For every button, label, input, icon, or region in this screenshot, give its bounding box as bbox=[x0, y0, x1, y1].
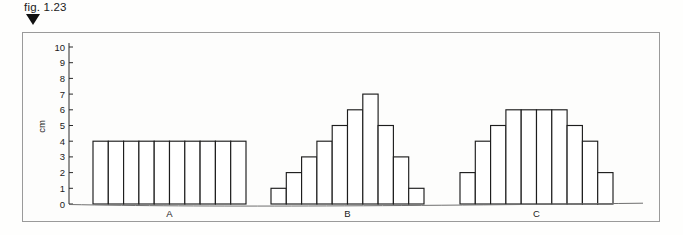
y-axis-tick-label: 9 bbox=[60, 57, 65, 68]
bar bbox=[460, 173, 475, 204]
bar bbox=[582, 141, 597, 204]
bar bbox=[286, 173, 301, 204]
bar bbox=[537, 110, 552, 204]
page-root: fig. 1.23 012345678910cm ABC bbox=[0, 0, 683, 235]
bar bbox=[139, 141, 154, 204]
bar bbox=[271, 188, 286, 204]
bar bbox=[363, 94, 378, 204]
y-axis: 012345678910cm bbox=[36, 42, 73, 210]
bar bbox=[108, 141, 123, 204]
y-axis-tick-label: 5 bbox=[60, 120, 65, 131]
bar bbox=[348, 110, 363, 204]
y-axis-tick-label: 10 bbox=[54, 42, 65, 53]
bar bbox=[567, 126, 582, 205]
bar bbox=[154, 141, 169, 204]
down-triangle-marker-icon bbox=[26, 14, 40, 25]
y-axis-tick-label: 8 bbox=[60, 73, 65, 84]
group-labels-layer: ABC bbox=[166, 208, 540, 219]
bar bbox=[521, 110, 536, 204]
bar bbox=[506, 110, 521, 204]
y-axis-tick-label: 1 bbox=[60, 183, 65, 194]
y-axis-tick-label: 7 bbox=[60, 89, 65, 100]
bar bbox=[302, 157, 317, 204]
bar bbox=[93, 141, 108, 204]
figure-caption-text: fig. 1.23 bbox=[24, 1, 67, 14]
chart-frame: 012345678910cm ABC bbox=[22, 32, 660, 222]
bar bbox=[185, 141, 200, 204]
bar bbox=[215, 141, 230, 204]
bar bbox=[200, 141, 215, 204]
y-axis-tick-label: 4 bbox=[60, 136, 65, 147]
bar bbox=[378, 126, 393, 205]
bar bbox=[393, 157, 408, 204]
y-axis-tick-label: 3 bbox=[60, 151, 65, 162]
bar bbox=[231, 141, 246, 204]
bar bbox=[409, 188, 424, 204]
bar bbox=[491, 126, 506, 205]
y-axis-tick-label: 2 bbox=[60, 167, 65, 178]
bar-chart-plot: 012345678910cm ABC bbox=[23, 33, 659, 221]
bar bbox=[598, 173, 613, 204]
bar bbox=[475, 141, 490, 204]
group-label-b: B bbox=[344, 208, 350, 219]
figure-caption-block: fig. 1.23 bbox=[24, 1, 67, 25]
group-label-c: C bbox=[533, 208, 540, 219]
bar bbox=[170, 141, 185, 204]
bars-layer bbox=[93, 94, 613, 204]
bar bbox=[332, 126, 347, 205]
y-axis-tick-label: 0 bbox=[60, 199, 65, 210]
y-axis-title: cm bbox=[36, 120, 47, 133]
bar bbox=[124, 141, 139, 204]
y-axis-tick-label: 6 bbox=[60, 104, 65, 115]
bar bbox=[317, 141, 332, 204]
bar bbox=[552, 110, 567, 204]
group-label-a: A bbox=[166, 208, 173, 219]
